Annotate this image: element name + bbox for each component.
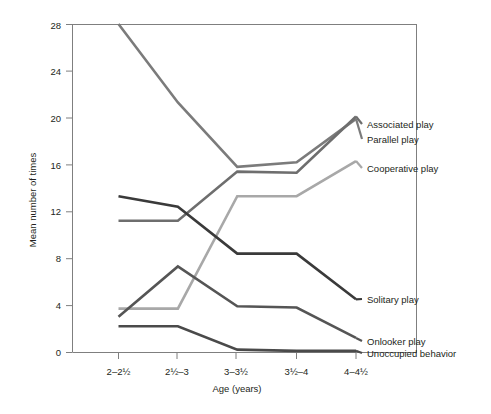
x-tick-label-0: 2–2½ [107, 366, 131, 377]
series-label-associated-play: Associated play [367, 119, 434, 130]
x-tick-label-3: 3½–4 [285, 366, 309, 377]
y-axis-ticks: 0 4 8 12 16 20 24 28 [50, 20, 72, 359]
y-tick-label-0: 0 [56, 347, 61, 358]
y-tick-label-20: 20 [50, 113, 61, 124]
series-leader-cooperative-play [356, 161, 362, 168]
y-tick-label-8: 8 [56, 253, 61, 264]
y-tick-label-4: 4 [56, 300, 61, 311]
x-tick-label-1: 2½–3 [165, 366, 189, 377]
y-tick-label-24: 24 [50, 66, 61, 77]
series-label-solitary-play: Solitary play [367, 294, 419, 305]
x-axis-ticks: 2–2½ 2½–3 3–3½ 3½–4 4–4½ [107, 353, 368, 378]
chart-container: 0 4 8 12 16 20 24 28 2–2½ 2½–3 3–3½ 3½–4… [0, 0, 491, 414]
y-tick-label-16: 16 [50, 160, 61, 171]
series-label-layer: Parallel playAssociated playCooperative … [356, 117, 456, 359]
series-line-unoccupied-behavior [119, 326, 357, 351]
axis-frame [73, 24, 418, 353]
series-line-solitary-play [119, 196, 357, 299]
series-layer [119, 24, 357, 351]
line-chart-plot: 0 4 8 12 16 20 24 28 2–2½ 2½–3 3–3½ 3½–4… [0, 0, 491, 414]
y-tick-label-12: 12 [50, 206, 61, 217]
series-leader-onlooker-play [356, 338, 362, 341]
series-label-unoccupied-behavior: Unoccupied behavior [367, 348, 456, 359]
x-tick-label-2: 3–3½ [224, 366, 248, 377]
series-label-onlooker-play: Onlooker play [367, 336, 426, 347]
series-label-cooperative-play: Cooperative play [367, 163, 439, 174]
series-line-associated-play [119, 117, 357, 221]
series-label-parallel-play: Parallel play [367, 134, 419, 145]
y-axis-title: Mean number of times [27, 152, 38, 247]
x-tick-label-4: 4–4½ [344, 366, 368, 377]
y-tick-label-28: 28 [50, 20, 61, 31]
series-line-parallel-play [119, 24, 357, 167]
x-axis-title: Age (years) [212, 383, 261, 394]
